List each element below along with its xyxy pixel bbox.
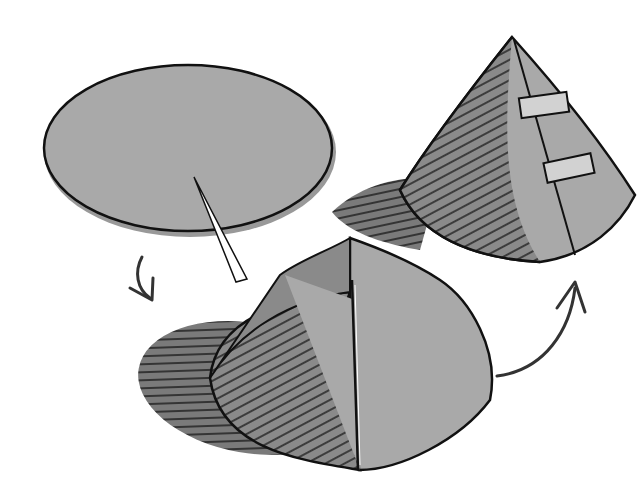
paper-cone-illustration (0, 0, 637, 482)
partial-cone (127, 238, 492, 472)
flat-disc (44, 65, 336, 282)
arrow-up-icon (497, 282, 585, 376)
finished-cone (332, 37, 635, 262)
arrow-down-icon (130, 257, 153, 300)
